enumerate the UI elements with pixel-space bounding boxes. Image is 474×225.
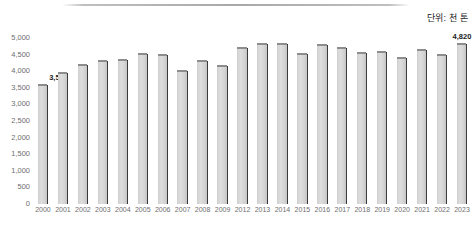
bar[interactable] <box>437 55 447 204</box>
bar-top-edge <box>118 59 127 61</box>
bar-slot <box>153 30 173 203</box>
y-axis-tick: 1,000 <box>0 167 30 175</box>
bar-slot <box>312 30 332 203</box>
bar-slot <box>292 30 312 203</box>
x-axis-tick: 2019 <box>372 206 392 213</box>
bar-top-edge <box>197 60 206 62</box>
y-axis-tick: 5,000 <box>0 34 30 42</box>
bar-slot <box>173 30 193 203</box>
bar-slot: 3,590 <box>33 30 53 203</box>
unit-note: 단위: 천 톤 <box>427 11 468 24</box>
bar[interactable] <box>317 45 327 204</box>
x-axis-tick: 2012 <box>233 206 253 213</box>
bar[interactable] <box>457 44 467 204</box>
bar[interactable] <box>197 61 207 204</box>
bar-top-edge <box>277 43 286 45</box>
bar-top-edge <box>437 54 446 56</box>
bar-slot <box>253 30 273 203</box>
y-axis-tick: 1,500 <box>0 150 30 158</box>
x-axis-tick: 2013 <box>253 206 273 213</box>
x-axis-tick: 2009 <box>213 206 233 213</box>
bar[interactable] <box>217 66 227 204</box>
bar-top-edge <box>78 64 87 66</box>
x-axis-tick: 2007 <box>173 206 193 213</box>
bar-slot <box>233 30 253 203</box>
x-axis-tick: 2018 <box>352 206 372 213</box>
y-axis-tick: 4,000 <box>0 67 30 75</box>
x-axis-tick: 2008 <box>193 206 213 213</box>
bar[interactable] <box>177 71 187 204</box>
bar[interactable] <box>98 61 108 204</box>
bar[interactable] <box>417 50 427 204</box>
x-axis-tick: 2023 <box>452 206 472 213</box>
y-axis-tick: 3,500 <box>0 84 30 92</box>
bar-slot <box>113 30 133 203</box>
bar[interactable] <box>237 48 247 204</box>
bar-top-edge <box>317 44 326 46</box>
bar-slot <box>332 30 352 203</box>
x-axis-tick: 2006 <box>153 206 173 213</box>
bar[interactable] <box>297 54 307 204</box>
x-axis-tick: 2020 <box>392 206 412 213</box>
header-divider <box>62 4 410 6</box>
bar-top-edge <box>38 84 47 86</box>
y-axis: 5,0004,5004,0003,5003,0002,5002,0001,500… <box>0 30 30 196</box>
bar-slot <box>133 30 153 203</box>
bar-slot <box>193 30 213 203</box>
bar-top-edge <box>337 47 346 49</box>
x-axis-tick: 2000 <box>33 206 53 213</box>
bar-value-label: 4,820 <box>453 32 472 41</box>
bar-slot <box>432 30 452 203</box>
y-axis-tick: 2,000 <box>0 134 30 142</box>
bar[interactable] <box>377 52 387 204</box>
bar-top-edge <box>158 54 167 56</box>
bar-slot <box>73 30 93 203</box>
bar-top-edge <box>377 51 386 53</box>
bar[interactable] <box>158 55 168 204</box>
bar-top-edge <box>417 49 426 51</box>
x-axis-tick: 2004 <box>113 206 133 213</box>
bar[interactable] <box>38 85 48 204</box>
x-axis-tick: 2003 <box>93 206 113 213</box>
x-axis-tick: 2001 <box>53 206 73 213</box>
bar-slot <box>352 30 372 203</box>
bar-slot <box>272 30 292 203</box>
bar-top-edge <box>357 52 366 54</box>
bar-slot <box>213 30 233 203</box>
bar-top-edge <box>217 65 226 67</box>
bar-slot <box>53 30 73 203</box>
bar-top-edge <box>237 47 246 49</box>
x-axis-tick: 2014 <box>272 206 292 213</box>
bar-top-edge <box>297 53 306 55</box>
x-axis-tick: 2005 <box>133 206 153 213</box>
bar-slot <box>372 30 392 203</box>
bar-top-edge <box>397 57 406 59</box>
bar-slot: 4,820 <box>452 30 472 203</box>
bar[interactable] <box>397 58 407 204</box>
bar[interactable] <box>357 53 367 204</box>
bar-top-edge <box>177 70 186 72</box>
bar-top-edge <box>58 72 67 74</box>
bar-top-edge <box>457 43 466 45</box>
bar[interactable] <box>78 65 88 204</box>
bar-series: 3,5904,820 <box>33 30 472 203</box>
y-axis-tick: 500 <box>0 183 30 191</box>
bar[interactable] <box>257 44 267 204</box>
x-axis: 2000200120022003200420052006200720082009… <box>33 206 472 222</box>
x-axis-tick: 2002 <box>73 206 93 213</box>
x-axis-tick: 2015 <box>292 206 312 213</box>
x-axis-tick: 2022 <box>432 206 452 213</box>
bar-top-edge <box>138 53 147 55</box>
bar-top-edge <box>98 60 107 62</box>
x-axis-tick: 2021 <box>412 206 432 213</box>
x-axis-tick: 2016 <box>312 206 332 213</box>
bar[interactable] <box>58 73 68 204</box>
bar[interactable] <box>277 44 287 204</box>
bar[interactable] <box>118 60 128 204</box>
bar-slot <box>412 30 432 203</box>
y-axis-tick: 0 <box>0 200 30 208</box>
bar[interactable] <box>138 54 148 204</box>
bar-chart: 5,0004,5004,0003,5003,0002,5002,0001,500… <box>0 30 474 225</box>
bar[interactable] <box>337 48 347 204</box>
bar-slot <box>93 30 113 203</box>
